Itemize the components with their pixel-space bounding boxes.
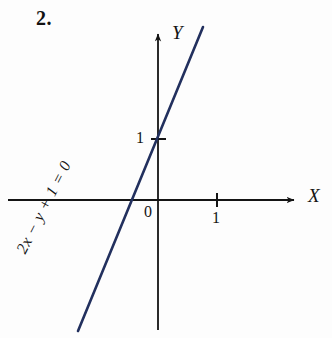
figure-canvas: 2. Y X 0 1 1 2x − y + 1 = 0 (0, 0, 332, 338)
y-axis-label: Y (172, 23, 183, 42)
x-axis-tick-label-1: 1 (212, 210, 220, 226)
y-axis-tick-label-1: 1 (136, 130, 144, 146)
plotted-line-2x-minus-y-plus-1 (78, 27, 203, 331)
origin-label: 0 (144, 204, 152, 220)
x-axis-label: X (308, 186, 320, 205)
coordinate-plot (0, 0, 332, 338)
